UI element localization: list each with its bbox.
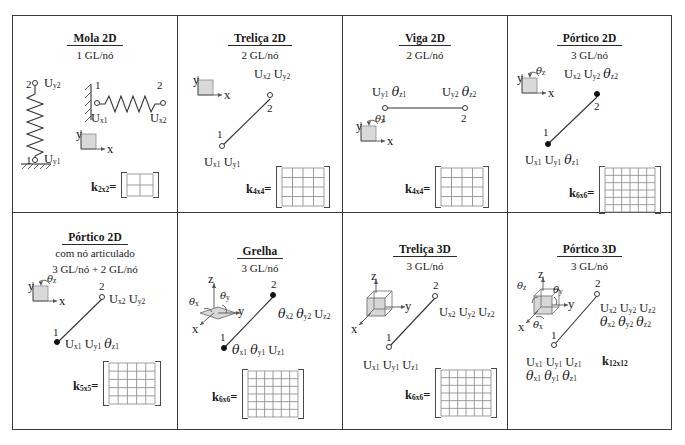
axis-label-x: x <box>548 87 554 100</box>
axis-label-theta-y: θy <box>553 285 563 296</box>
axis-label-theta-x: θx <box>533 320 543 331</box>
node-2 <box>32 80 38 86</box>
cell-viga-2d: Viga 2D 2 GL/nó Uy1 θz1 1 Uy2 θz2 2 y x … <box>343 16 507 212</box>
node-2 <box>432 293 438 299</box>
node-number-2-h: 2 <box>157 79 163 91</box>
dof-top: Ux2 Uy2 θz2 <box>564 68 618 81</box>
node-1 <box>32 157 38 163</box>
axis-label-theta-x: θx <box>189 297 199 308</box>
dof-bottom-u: Ux1 Uy1 Uz1 <box>526 356 581 369</box>
stiffness-label: k6x6= <box>212 390 237 405</box>
axis-label-theta-z: θz <box>517 281 526 292</box>
stiffness-matrix <box>441 370 491 416</box>
node-number-2: 2 <box>99 280 105 292</box>
dof-bottom: Ux1 Uy1 θz1 <box>525 154 579 167</box>
dof-ux2: Ux2 <box>150 112 167 125</box>
axis-label-z: z <box>538 268 544 281</box>
axis-label-z: z <box>208 273 214 286</box>
node-1 <box>382 105 388 111</box>
axis-label-y: y <box>76 128 82 141</box>
axis-label-y: y <box>405 300 411 313</box>
node-number-1: 1 <box>551 329 557 341</box>
axis-label-y: y <box>28 280 34 293</box>
dof-top: Ux2 Uy2 <box>254 68 290 81</box>
cell-portico-2d: Pórtico 2D 3 GL/nó Ux2 Uy2 θz2 2 1 Ux1 U… <box>508 16 671 212</box>
node-number-1: 1 <box>543 126 549 138</box>
dof-ux1: Ux1 <box>91 112 108 125</box>
dof-uy2: Uy2 <box>44 77 61 90</box>
cell-portico-3d: Pórtico 3D 3 GL/nó 2 Ux2 Uy2 Uz2 θx2 θy2… <box>508 213 671 429</box>
node-number-2: 2 <box>267 102 273 114</box>
dof-bottom: Ux1 Uy1 Uz1 <box>363 359 418 372</box>
stiffness-matrix <box>127 174 153 196</box>
stiffness-matrix <box>282 168 324 206</box>
axis-label-theta-z: θz <box>375 114 384 125</box>
node-1 <box>219 143 225 149</box>
dof-bottom: θx1 θy1 Uz1 <box>232 344 284 357</box>
axis-label-x: x <box>224 89 230 102</box>
stiffness-matrix <box>441 168 483 206</box>
dof-top-theta: θx2 θy2 θz2 <box>600 316 651 329</box>
stiffness-label: k6x6= <box>405 388 430 403</box>
stiffness-label: k5x5= <box>73 379 98 394</box>
axis-label-theta-z: θz <box>536 66 545 77</box>
node-1 <box>551 342 557 348</box>
node-number-2: 2 <box>595 277 601 289</box>
stiffness-label: k6x6= <box>569 186 594 201</box>
axis-label-x: x <box>387 135 393 148</box>
dof-left: Uy1 θz1 <box>372 86 406 99</box>
cell-trelica-3d: Treliça 3D 3 GL/nó 2 Ux2 Uy2 Uz2 1 Ux1 U… <box>343 213 507 429</box>
node-2-h <box>160 100 166 106</box>
node-number-1: 1 <box>53 326 59 338</box>
node-1 <box>545 141 551 147</box>
node-1 <box>54 339 60 345</box>
dof-bottom: Ux1 Uy1 <box>204 156 240 169</box>
stiffness-matrix <box>109 363 155 404</box>
axis-label-x: x <box>59 295 65 308</box>
node-number-1-h: 1 <box>95 79 101 91</box>
dof-top: Ux2 Uy2 <box>109 293 145 306</box>
stiffness-matrix <box>605 168 655 212</box>
axis-label-x: x <box>518 321 524 334</box>
axis-label-y: y <box>568 298 574 311</box>
node-number-1: 1 <box>220 331 226 343</box>
dof-top: Ux2 Uy2 Uz2 <box>439 306 494 319</box>
cell-grelha: Grelha 3 GL/nó 2 θx2 θy2 Uz2 1 θx1 θy1 U… <box>178 213 342 429</box>
node-2 <box>270 292 276 298</box>
dof-top-u: Ux2 Uy2 Uz2 <box>600 302 655 315</box>
node-number-2: 2 <box>594 100 600 112</box>
node-2 <box>462 105 468 111</box>
node-number-1: 1 <box>217 128 223 140</box>
dof-uy1: Uy1 <box>44 153 61 166</box>
stiffness-label: k2x2= <box>91 180 116 195</box>
figure-sheet: Mola 2D 1 GL/nó 2 <box>0 0 685 445</box>
node-1-h <box>94 100 100 106</box>
node-2 <box>267 92 273 98</box>
axis-label-x: x <box>192 323 198 336</box>
cell-trelica-2d: Treliça 2D 2 GL/nó Ux2 Uy2 2 1 Ux1 Uy1 y… <box>178 16 342 212</box>
cell-mola-2d: Mola 2D 1 GL/nó 2 <box>13 16 177 212</box>
dof-bottom: Ux1 Uy1 θz1 <box>65 338 119 351</box>
axis-label-y: y <box>356 120 362 133</box>
cell-portico-2d-articulado: Pórtico 2D com nó articulado 3 GL/nó + 2… <box>13 213 177 429</box>
axis-label-y: y <box>517 72 523 85</box>
node-2 <box>594 291 600 297</box>
axis-label-y: y <box>238 305 244 318</box>
node-number-2: 2 <box>26 78 32 90</box>
node-1 <box>221 345 227 351</box>
node-2 <box>99 294 105 300</box>
dof-top: θx2 θy2 Uz2 <box>278 308 330 321</box>
axis-label-x: x <box>107 143 113 156</box>
stiffness-label: k4x4= <box>405 182 430 197</box>
axis-label-theta-y: θy <box>220 291 230 302</box>
node-2 <box>594 91 600 97</box>
node-number-2: 2 <box>461 112 467 124</box>
node-number-1: 1 <box>386 331 392 343</box>
axis-label-y: y <box>193 74 199 87</box>
node-1 <box>386 344 392 350</box>
axis-label-z: z <box>371 270 377 283</box>
stiffness-matrix <box>248 371 298 417</box>
node-number-2: 2 <box>271 278 277 290</box>
axis-label-x: x <box>351 323 357 336</box>
node-number-1: 1 <box>26 154 32 166</box>
